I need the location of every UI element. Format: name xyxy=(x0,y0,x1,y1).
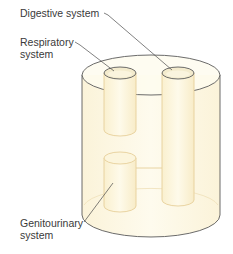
body-top-surface xyxy=(82,55,220,95)
digestive-tube xyxy=(162,67,194,206)
label-digestive-system: Digestive system xyxy=(20,7,99,19)
genitourinary-tube-side xyxy=(104,158,136,212)
body-side xyxy=(82,75,220,237)
genitourinary-top xyxy=(104,152,136,164)
label-respiratory-line1: Respiratory xyxy=(20,36,74,48)
respiratory-tube-side xyxy=(104,73,136,136)
outer-body-cylinder xyxy=(82,55,220,237)
label-genitourinary-line2: system xyxy=(20,229,83,241)
label-genitourinary-system: Genitourinary system xyxy=(20,217,83,241)
genitourinary-tube xyxy=(104,152,136,212)
label-digestive-text: Digestive system xyxy=(20,7,99,19)
respiratory-tube xyxy=(104,67,136,136)
digestive-opening-inner xyxy=(166,71,190,78)
label-genitourinary-line1: Genitourinary xyxy=(20,217,83,229)
label-respiratory-system: Respiratory system xyxy=(20,36,74,60)
respiratory-opening-inner xyxy=(108,71,132,78)
label-respiratory-line2: system xyxy=(20,48,74,60)
digestive-tube-side xyxy=(162,73,194,206)
